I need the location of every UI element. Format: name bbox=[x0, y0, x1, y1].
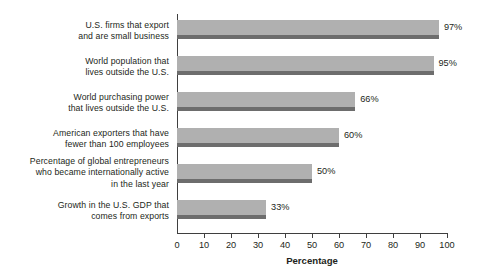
x-axis-tick-label: 40 bbox=[280, 240, 290, 251]
bar-face bbox=[177, 128, 339, 143]
bar-chart: U.S. firms that export and are small bus… bbox=[0, 0, 480, 276]
bar-face bbox=[177, 56, 434, 71]
bar-face bbox=[177, 92, 355, 107]
bar bbox=[177, 128, 339, 147]
bar-face bbox=[177, 164, 312, 179]
x-axis-tick-label: 100 bbox=[439, 240, 454, 251]
bar-shadow bbox=[177, 35, 439, 40]
bar bbox=[177, 56, 434, 75]
x-axis-tick-label: 90 bbox=[415, 240, 425, 251]
x-axis-tick-label: 50 bbox=[307, 240, 317, 251]
bar-face bbox=[177, 20, 439, 35]
bar-value-label: 66% bbox=[360, 93, 378, 106]
bar-face bbox=[177, 200, 266, 215]
category-label: Percentage of global entrepreneurs who b… bbox=[0, 156, 173, 190]
x-axis-tick bbox=[312, 234, 313, 238]
category-label: World population that lives outside the … bbox=[0, 56, 173, 79]
x-axis-tick bbox=[204, 234, 205, 238]
x-axis-tick bbox=[366, 234, 367, 238]
bar-shadow bbox=[177, 215, 266, 220]
bar-shadow bbox=[177, 107, 355, 112]
x-axis-tick-label: 80 bbox=[388, 240, 398, 251]
x-axis-title: Percentage bbox=[286, 255, 338, 266]
category-label: American exporters that have fewer than … bbox=[0, 128, 173, 151]
category-axis-labels: U.S. firms that export and are small bus… bbox=[0, 0, 173, 276]
x-axis-tick bbox=[231, 234, 232, 238]
x-axis-tick bbox=[447, 234, 448, 238]
category-label: World purchasing power that lives outsid… bbox=[0, 92, 173, 115]
x-axis-tick bbox=[393, 234, 394, 238]
plot-area: 97%95%66%60%50%33% bbox=[177, 14, 447, 233]
bar bbox=[177, 164, 312, 183]
bar-value-label: 50% bbox=[317, 165, 335, 178]
x-axis-tick-label: 20 bbox=[226, 240, 236, 251]
bar-shadow bbox=[177, 143, 339, 148]
category-label: U.S. firms that export and are small bus… bbox=[0, 20, 173, 43]
bar-value-label: 33% bbox=[271, 201, 289, 214]
x-axis-tick-label: 60 bbox=[334, 240, 344, 251]
x-axis-tick bbox=[339, 234, 340, 238]
bar-value-label: 97% bbox=[444, 21, 462, 34]
x-axis-tick-label: 30 bbox=[253, 240, 263, 251]
bar-value-label: 60% bbox=[344, 129, 362, 142]
bar bbox=[177, 92, 355, 111]
bar bbox=[177, 200, 266, 219]
category-label: Growth in the U.S. GDP that comes from e… bbox=[0, 200, 173, 223]
x-axis-tick bbox=[420, 234, 421, 238]
x-axis-tick-label: 70 bbox=[361, 240, 371, 251]
x-axis-tick bbox=[258, 234, 259, 238]
bar-shadow bbox=[177, 71, 434, 76]
bar-value-label: 95% bbox=[439, 57, 457, 70]
bar-shadow bbox=[177, 179, 312, 184]
bar bbox=[177, 20, 439, 39]
x-axis-tick-label: 0 bbox=[174, 240, 179, 251]
x-axis-tick bbox=[285, 234, 286, 238]
x-axis-tick-label: 10 bbox=[199, 240, 209, 251]
